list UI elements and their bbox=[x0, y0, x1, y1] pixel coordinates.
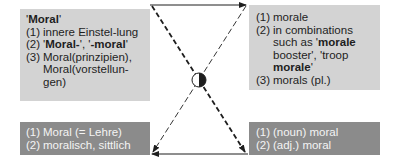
list-item: (1) innere Einstel-lung bbox=[26, 26, 144, 39]
list-item: (2) moralisch, sittlich bbox=[26, 139, 144, 152]
half-filled-circle-icon bbox=[192, 73, 206, 87]
box-title: 'Moral' bbox=[26, 13, 144, 26]
list-item: (2) 'Moral-', '-moral' bbox=[26, 38, 144, 51]
list-item: (1) Moral (= Lehre) bbox=[26, 126, 144, 139]
list-item: (2) (adj.) moral bbox=[256, 139, 373, 152]
list-item: (1) morale bbox=[256, 11, 373, 24]
list-item: (3) morals (pl.) bbox=[256, 74, 373, 87]
box-english-morale: (1) morale (2) in combinations such as '… bbox=[249, 5, 380, 90]
box-german-moral: 'Moral' (1) innere Einstel-lung (2) 'Mor… bbox=[20, 9, 150, 101]
box-german-moral-equivalents: (1) Moral (= Lehre) (2) moralisch, sittl… bbox=[20, 122, 150, 155]
list-item: (2) in combinations such as 'morale boos… bbox=[256, 24, 373, 74]
list-item: (1) (noun) moral bbox=[256, 126, 373, 139]
list-item: (3) Moral(prinzipien), Moral(vorstellun-… bbox=[26, 51, 144, 89]
box-english-moral: (1) (noun) moral (2) (adj.) moral bbox=[249, 122, 380, 155]
